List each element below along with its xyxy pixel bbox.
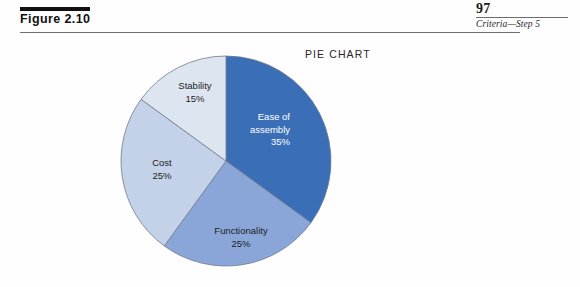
figure-label: Figure 2.10 bbox=[20, 12, 90, 26]
figure-page: Figure 2.10 97 Criteria—Step 5 PIE CHART… bbox=[0, 0, 580, 287]
pie-slice-name-line: Ease of bbox=[258, 111, 291, 122]
pie-slice-name-line: Stability bbox=[178, 80, 212, 91]
pie-chart: Ease ofassembly35%Functionality25%Cost25… bbox=[118, 41, 338, 281]
folio: 97 Criteria—Step 5 bbox=[476, 1, 568, 29]
page-number: 97 bbox=[476, 1, 568, 16]
folio-divider bbox=[476, 17, 568, 18]
header-divider bbox=[20, 32, 520, 33]
pie-slice-value: 25% bbox=[231, 238, 251, 249]
pie-slice-name-line: Cost bbox=[152, 157, 172, 168]
running-head: Criteria—Step 5 bbox=[476, 19, 568, 29]
pie-slice-label: Cost25% bbox=[152, 157, 172, 181]
pie-slice-value: 35% bbox=[271, 136, 291, 147]
figure-rule-bar bbox=[20, 7, 90, 11]
chart-area: PIE CHART Ease ofassembly35%Functionalit… bbox=[0, 38, 580, 287]
pie-slice-name-line: assembly bbox=[250, 124, 290, 135]
pie-slice-name-line: Functionality bbox=[214, 225, 268, 236]
pie-slice-value: 15% bbox=[185, 93, 205, 104]
pie-slice-value: 25% bbox=[152, 170, 172, 181]
